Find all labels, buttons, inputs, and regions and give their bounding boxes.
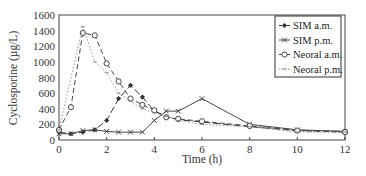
x-tick-label: 0 [56,143,62,155]
circle-marker-icon [247,123,252,128]
y-tick-label: 400 [39,103,56,115]
legend-label: Neoral a.m. [293,49,342,60]
legend-label: Neoral p.m. [293,64,343,75]
y-tick-label: 1200 [33,40,56,52]
circle-marker-icon [116,79,121,84]
circle-marker-icon [68,105,73,110]
y-tick-label: 1000 [33,56,56,68]
legend-label: SIM a.m. [293,20,332,31]
x-tick-label: 2 [104,143,110,155]
x-tick-label: 4 [152,143,158,155]
y-tick-label: 1600 [33,9,56,21]
y-tick-label: 800 [39,72,56,84]
y-tick-label: 1400 [33,25,56,37]
y-tick-label: 200 [39,118,56,130]
legend-label: SIM p.m. [293,35,333,46]
diamond-marker-icon [116,96,121,101]
diamond-marker-icon [104,118,109,123]
x-tick-label: 8 [247,143,253,155]
y-tick-label: 600 [39,87,56,99]
series-sim-a-m [56,83,347,137]
x-tick-label: 12 [340,143,351,155]
legend: SIM a.m.SIM p.m.Neoral a.m.Neoral p.m. [275,16,343,77]
line-chart: 02004006008001000120014001600 024681012 … [0,0,366,176]
x-marker-icon [200,96,205,101]
x-axis-label: Time (h) [182,153,222,166]
y-tick-label: 0 [50,134,56,146]
y-axis-label: Cyclosporine (µg/L) [7,31,20,126]
circle-marker-icon [104,61,109,66]
circle-marker-icon [140,102,145,107]
series-sim-p-m [57,96,348,136]
x-marker-icon [152,118,157,123]
x-tick-label: 10 [292,143,304,155]
circle-marker-icon [199,119,204,124]
y-axis-ticks: 02004006008001000120014001600 [33,9,56,146]
circle-marker-icon [92,33,97,38]
circle-marker-icon [282,52,287,57]
